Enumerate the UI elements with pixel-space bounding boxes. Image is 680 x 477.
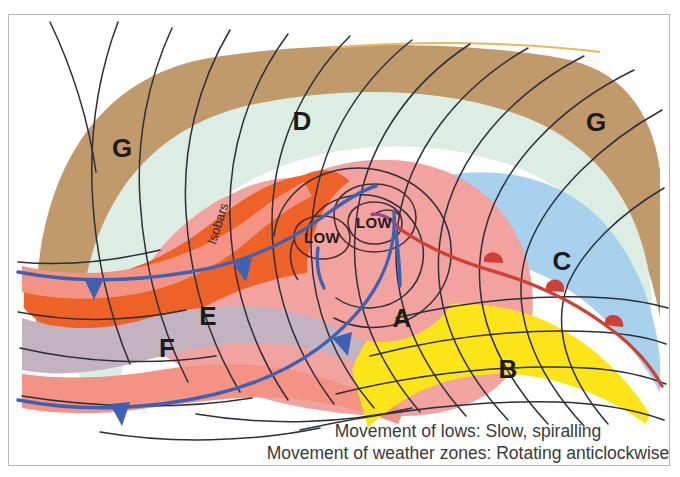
zone-label-d: D — [293, 106, 312, 136]
caption-line-2: Movement of weather zones: Rotating anti… — [267, 443, 670, 463]
weather-map-figure: G D G C E A F B Isobars LOW LOW Movement… — [0, 0, 680, 477]
low-label-primary: LOW — [356, 214, 392, 231]
low-label-secondary: LOW — [304, 229, 340, 246]
zone-label-g-left: G — [112, 133, 132, 163]
zone-label-e: E — [199, 301, 216, 331]
isobar-line — [100, 428, 320, 440]
zone-label-g-right: G — [586, 107, 606, 137]
zone-label-f: F — [159, 333, 175, 363]
weather-map-diagram: G D G C E A F B Isobars LOW LOW Movement… — [0, 0, 680, 477]
caption-line-1: Movement of lows: Slow, spiralling — [335, 421, 602, 441]
zone-label-a: A — [393, 303, 412, 333]
cold-front-triangle — [110, 402, 130, 426]
zone-label-b: B — [499, 354, 518, 384]
zone-label-c: C — [553, 246, 572, 276]
